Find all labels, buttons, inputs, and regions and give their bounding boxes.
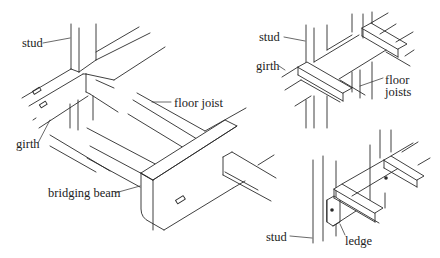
bottom-right-labels: stud ledge [266,224,373,248]
main-stud [71,24,96,72]
main-girth [22,60,96,128]
label-stud-br: stud [266,230,288,244]
label-girth-tr: girth [256,59,280,73]
bottom-right-panel [313,130,430,243]
diagram-canvas: stud girth floor joist bridging beam [0,0,440,258]
label-ledge: ledge [345,234,373,248]
top-right-panel [282,12,414,128]
main-bridging-beam [141,108,246,230]
main-labels: stud girth floor joist bridging beam [16,36,223,200]
label-floor-joists-tr-2: joists [384,85,412,99]
label-stud-tr: stud [259,30,281,44]
main-junction [86,74,118,112]
main-lower-stud [70,96,93,130]
label-floor-joist: floor joist [174,96,223,110]
main-right-joist [223,152,276,201]
label-bridging-beam: bridging beam [48,186,121,200]
label-girth: girth [16,137,40,151]
main-girth-upper [96,27,165,80]
label-stud: stud [22,36,44,50]
